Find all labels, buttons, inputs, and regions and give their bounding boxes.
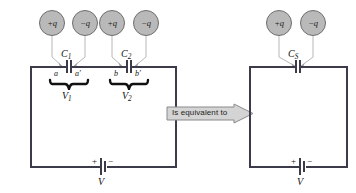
- capacitor-2-plate-b: [126, 60, 128, 73]
- capacitor-s-plate-right: [299, 60, 301, 73]
- charge-label: +q: [107, 19, 117, 28]
- capacitor-2-letter: C: [121, 48, 128, 59]
- leader-charge-4: [135, 36, 146, 66]
- wire-top-left-seg2: [71, 66, 126, 68]
- wire-right-circuit-right-vertical: [346, 66, 348, 168]
- charge-label: −q: [80, 19, 90, 28]
- charge-bubble-plus-q-1[interactable]: +q: [39, 10, 65, 36]
- battery-left-long-plate: [100, 158, 102, 175]
- wire-bottom-right-seg2: [306, 166, 348, 168]
- equivalence-arrow-label: Is equivalent to: [172, 108, 227, 117]
- charge-bubble-minus-q-2[interactable]: −q: [133, 10, 159, 36]
- charge-label: +q: [47, 19, 57, 28]
- plate-label-b: b: [114, 70, 118, 78]
- battery-left-label: V: [98, 177, 104, 187]
- leader-charge-6: [301, 36, 313, 66]
- charge-label: +q: [274, 19, 284, 28]
- battery-left-plus-sign: +: [92, 157, 97, 166]
- wire-top-left-seg1: [30, 66, 67, 68]
- wire-top-right-seg2: [301, 66, 348, 68]
- battery-left-minus-sign: −: [108, 157, 113, 166]
- brace-capacitor-2: [108, 78, 150, 90]
- capacitor-1-plate-a-prime: [70, 60, 72, 73]
- wire-bottom-right-seg1: [249, 166, 299, 168]
- voltage-v2-subscript: 2: [128, 95, 132, 103]
- diagram-canvas: +q −q +q −q C1 C2 a a′ b b′ V1: [0, 0, 356, 193]
- wire-left-vertical: [30, 66, 32, 168]
- battery-right-plus-sign: +: [291, 157, 296, 166]
- plate-label-a: a: [54, 70, 58, 78]
- capacitor-s-plate-left: [295, 60, 297, 73]
- leader-charge-2: [74, 36, 85, 66]
- battery-right-label: V: [297, 177, 303, 187]
- voltage-v1-subscript: 1: [68, 95, 72, 103]
- charge-label: −q: [141, 19, 151, 28]
- capacitor-2-plate-b-prime: [130, 60, 132, 73]
- wire-bottom-left-seg1: [30, 166, 100, 168]
- equivalence-arrow: Is equivalent to: [166, 103, 254, 124]
- voltage-label-v1: V1: [62, 91, 72, 103]
- charge-label: −q: [308, 19, 318, 28]
- capacitor-1-letter: C: [61, 48, 68, 59]
- capacitor-1-plate-a: [66, 60, 68, 73]
- capacitor-s-letter: C: [288, 48, 295, 59]
- brace-capacitor-1: [48, 78, 90, 90]
- wire-bottom-left-seg2: [107, 166, 177, 168]
- battery-right-minus-sign: −: [307, 157, 312, 166]
- battery-right-short-plate: [303, 161, 305, 172]
- battery-right-long-plate: [299, 158, 301, 175]
- voltage-label-v2: V2: [122, 91, 132, 103]
- plate-label-a-prime: a′: [75, 70, 81, 78]
- charge-bubble-minus-q-3[interactable]: −q: [300, 10, 326, 36]
- wire-right-circuit-left-vertical: [249, 66, 251, 168]
- plate-label-b-prime: b′: [135, 70, 141, 78]
- charge-bubble-minus-q-1[interactable]: −q: [72, 10, 98, 36]
- battery-left-short-plate: [104, 161, 106, 172]
- charge-bubble-plus-q-3[interactable]: +q: [266, 10, 292, 36]
- wire-top-left-seg3: [132, 66, 177, 68]
- wire-top-right-seg1: [249, 66, 296, 68]
- charge-bubble-plus-q-2[interactable]: +q: [99, 10, 125, 36]
